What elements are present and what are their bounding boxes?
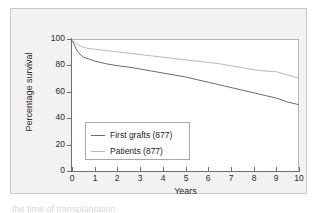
figure-panel: 020406080100 012345678910 Percentage sur… [10,8,307,194]
y-tick-label-wrap: 20 [41,140,65,149]
y-tick-label: 100 [51,34,65,43]
x-tick-label: 4 [155,173,171,183]
legend-item-patients: Patients (877) [91,145,163,157]
legend-item-first-grafts: First grafts (877) [91,129,172,141]
y-tick-label-wrap: 100 [41,34,65,43]
x-tick-mark [186,167,187,172]
x-tick-label: 1 [87,173,103,183]
legend-swatch-patients [91,151,105,152]
figure-root: 020406080100 012345678910 Percentage sur… [0,0,319,213]
y-tick-label-wrap: 0 [41,166,65,175]
legend-label-first-grafts: First grafts (877) [110,130,172,140]
x-tick-label: 9 [268,173,284,183]
x-tick-mark [276,167,277,172]
x-tick-label: 2 [109,173,125,183]
x-tick-mark [231,167,232,172]
x-tick-mark [140,167,141,172]
x-tick-mark [208,167,209,172]
y-tick-mark [67,92,72,93]
x-tick-mark [117,167,118,172]
y-tick-label: 80 [56,60,65,69]
y-tick-mark [67,65,72,66]
x-tick-mark [163,167,164,172]
x-tick-mark [72,167,73,172]
x-tick-label: 8 [246,173,262,183]
y-axis-label: Percentage survival [24,32,34,152]
x-tick-label: 7 [223,173,239,183]
x-tick-mark [95,167,96,172]
y-tick-label: 20 [56,140,65,149]
y-tick-label-wrap: 80 [41,60,65,69]
x-tick-label: 5 [178,173,194,183]
y-axis-line [71,38,72,172]
y-tick-label-wrap: 60 [41,87,65,96]
x-tick-label: 3 [132,173,148,183]
x-axis-label: Years [72,186,299,196]
y-tick-label: 60 [56,87,65,96]
chart-legend: First grafts (877) Patients (877) [85,122,190,160]
legend-swatch-first-grafts [91,135,105,136]
series-line-patients [72,40,299,78]
x-tick-label: 10 [291,173,307,183]
y-tick-label-wrap: 40 [41,113,65,122]
y-tick-label: 40 [56,113,65,122]
series-group [72,40,299,105]
x-tick-label: 0 [64,173,80,183]
caption-fragment: the time of transplantation [12,204,307,213]
legend-label-patients: Patients (877) [110,146,163,156]
x-tick-label: 6 [200,173,216,183]
x-tick-mark [299,167,300,172]
x-tick-mark [254,167,255,172]
y-tick-mark [67,39,72,40]
series-line-first-grafts [72,40,299,105]
y-tick-mark [67,145,72,146]
y-tick-mark [67,118,72,119]
